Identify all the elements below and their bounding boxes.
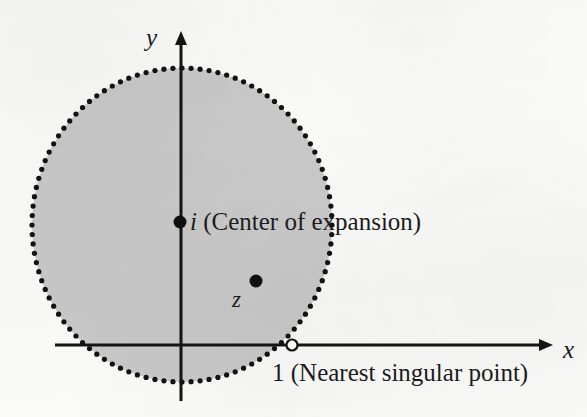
boundary-dot — [87, 346, 92, 351]
boundary-dot — [30, 241, 35, 246]
boundary-dot — [224, 372, 229, 377]
boundary-dot — [94, 93, 99, 98]
boundary-dot — [56, 133, 61, 138]
boundary-dot — [257, 88, 262, 93]
boundary-dot — [102, 88, 107, 93]
boundary-dot — [39, 278, 44, 283]
boundary-dot — [126, 369, 131, 374]
boundary-dot — [135, 372, 140, 377]
boundary-dot — [32, 251, 37, 256]
boundary-dot — [51, 304, 56, 309]
boundary-dot — [325, 185, 330, 190]
boundary-dot — [118, 79, 123, 84]
boundary-dot — [241, 366, 246, 371]
boundary-dot — [80, 105, 85, 110]
boundary-dot — [51, 141, 56, 146]
boundary-dot — [312, 295, 317, 300]
singular-symbol: 1 — [272, 359, 285, 386]
boundary-dot — [30, 232, 35, 237]
boundary-dot — [320, 278, 325, 283]
complex-plane-figure: y x i (Center of expansion) z 1 (Nearest… — [0, 0, 587, 417]
boundary-dot — [152, 68, 157, 73]
boundary-dot — [30, 213, 35, 218]
boundary-dot — [61, 126, 66, 131]
boundary-dot — [67, 118, 72, 123]
center-of-expansion-label: i (Center of expansion) — [190, 209, 421, 234]
boundary-dot — [67, 327, 72, 332]
boundary-dot — [316, 287, 321, 292]
boundary-dot — [36, 176, 41, 181]
boundary-dot — [29, 222, 34, 227]
boundary-dot — [308, 141, 313, 146]
boundary-dot — [215, 70, 220, 75]
boundary-dot — [327, 194, 332, 199]
boundary-dot — [73, 333, 78, 338]
boundary-dot — [297, 319, 302, 324]
boundary-dot — [61, 319, 66, 324]
boundary-dot — [152, 377, 157, 382]
boundary-dot — [94, 352, 99, 357]
boundary-dot — [323, 176, 328, 181]
boundary-dot — [265, 93, 270, 98]
boundary-dot — [328, 241, 333, 246]
boundary-dot — [233, 369, 238, 374]
boundary-dot — [170, 66, 175, 71]
boundary-dot — [197, 67, 202, 72]
boundary-dot — [73, 111, 78, 116]
boundary-dot — [249, 361, 254, 366]
boundary-dot — [279, 105, 284, 110]
boundary-dot — [206, 68, 211, 73]
boundary-dot — [30, 203, 35, 208]
boundary-dot — [110, 83, 115, 88]
boundary-dot — [257, 357, 262, 362]
boundary-dot — [285, 111, 290, 116]
boundary-dot — [87, 99, 92, 104]
boundary-dot — [102, 357, 107, 362]
boundary-dot — [135, 73, 140, 78]
point-marker-nearest-singular-point — [287, 340, 298, 351]
boundary-dot — [144, 375, 149, 380]
boundary-dot — [308, 304, 313, 309]
singular-text: (Nearest singular point) — [285, 359, 529, 386]
boundary-dot — [197, 378, 202, 383]
boundary-dot — [43, 158, 48, 163]
center-symbol: i — [190, 208, 197, 235]
boundary-dot — [272, 99, 277, 104]
boundary-dot — [233, 76, 238, 81]
boundary-dot — [215, 375, 220, 380]
point-z-label: z — [232, 288, 241, 311]
boundary-dot — [56, 312, 61, 317]
point-marker-center-of-expansion — [174, 216, 187, 229]
boundary-dot — [32, 194, 37, 199]
boundary-dot — [272, 346, 277, 351]
boundary-dot — [110, 361, 115, 366]
boundary-dot — [34, 185, 39, 190]
boundary-dot — [316, 158, 321, 163]
boundary-dot — [285, 333, 290, 338]
boundary-dot — [323, 269, 328, 274]
boundary-dot — [320, 167, 325, 172]
boundary-dot — [188, 66, 193, 71]
boundary-dot — [170, 379, 175, 384]
boundary-dot — [265, 352, 270, 357]
boundary-dot — [292, 118, 297, 123]
y-axis-label: y — [146, 25, 157, 50]
boundary-dot — [126, 76, 131, 81]
boundary-dot — [327, 251, 332, 256]
boundary-dot — [241, 79, 246, 84]
boundary-dot — [47, 295, 52, 300]
boundary-dot — [36, 269, 41, 274]
nearest-singular-point-label: 1 (Nearest singular point) — [272, 360, 528, 385]
boundary-dot — [161, 378, 166, 383]
boundary-dot — [118, 366, 123, 371]
boundary-dot — [312, 149, 317, 154]
boundary-dot — [303, 133, 308, 138]
boundary-dot — [144, 70, 149, 75]
boundary-dot — [249, 83, 254, 88]
boundary-dot — [47, 149, 52, 154]
boundary-dot — [206, 377, 211, 382]
boundary-dot — [224, 73, 229, 78]
boundary-dot — [161, 67, 166, 72]
boundary-dot — [325, 260, 330, 265]
boundary-dot — [303, 312, 308, 317]
